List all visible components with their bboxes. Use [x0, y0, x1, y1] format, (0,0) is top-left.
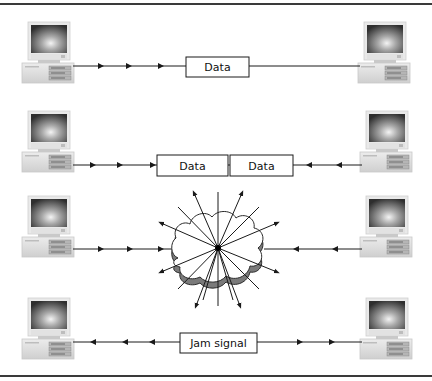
arrow-left-icon: [332, 246, 338, 252]
csma-cd-diagram: Data Data Data: [0, 0, 432, 381]
arrow-right-icon: [98, 246, 104, 252]
arrow-right-icon: [297, 339, 303, 345]
row-1-transmit: Data: [22, 22, 410, 83]
left-computer-icon: [22, 22, 74, 83]
arrow-right-icon: [98, 63, 104, 69]
arrow-right-icon: [150, 162, 156, 168]
data-frame-label: Data: [204, 61, 230, 74]
left-computer-icon: [22, 196, 74, 257]
arrow-right-icon: [117, 162, 123, 168]
arrow-right-icon: [90, 162, 96, 168]
arrow-right-icon: [158, 246, 164, 252]
arrow-left-icon: [90, 339, 96, 345]
row-3-collision: [22, 192, 412, 306]
data-frame-label-left: Data: [179, 160, 205, 173]
row-4-jam-signal: Jam signal: [22, 298, 412, 359]
arrow-right-icon: [158, 63, 164, 69]
arrow-left-icon: [122, 339, 128, 345]
collision-point: [215, 245, 221, 251]
left-computer-icon: [22, 111, 74, 172]
arrow-right-icon: [127, 246, 133, 252]
row-2-both-transmit: Data Data: [22, 111, 412, 176]
arrow-left-icon: [149, 339, 155, 345]
left-computer-icon: [22, 298, 74, 359]
data-frame-label-right: Data: [248, 160, 274, 173]
arrow-right-icon: [329, 339, 335, 345]
right-computer-icon: [358, 22, 410, 83]
arrow-right-icon: [126, 63, 132, 69]
arrow-left-icon: [306, 162, 312, 168]
jam-signal-label: Jam signal: [189, 337, 247, 350]
arrow-left-icon: [336, 162, 342, 168]
right-computer-icon: [360, 298, 412, 359]
arrow-left-icon: [293, 246, 299, 252]
right-computer-icon: [360, 111, 412, 172]
right-computer-icon: [360, 196, 412, 257]
